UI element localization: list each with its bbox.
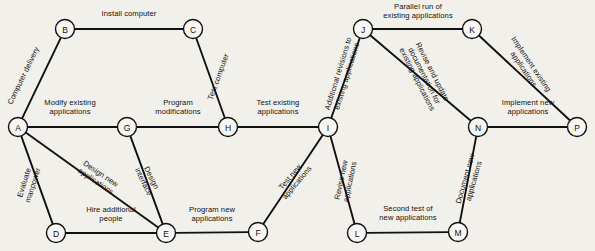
edge-e-f [175, 232, 248, 233]
node-c[interactable]: C [184, 20, 203, 39]
node-label-c: C [190, 25, 196, 35]
node-label-e: E [163, 229, 169, 239]
node-label-m: M [454, 228, 461, 238]
node-label-f: F [255, 228, 260, 238]
node-label-j: J [361, 25, 365, 35]
node-label-p: P [574, 123, 580, 133]
node-l[interactable]: L [348, 224, 367, 243]
node-label-b: B [62, 25, 68, 35]
node-label-h: H [225, 123, 231, 133]
node-label-n: N [475, 123, 481, 133]
node-label-l: L [355, 229, 360, 239]
node-g[interactable]: G [118, 118, 137, 137]
node-n[interactable]: N [469, 118, 488, 137]
edge-f-i [263, 135, 322, 224]
project-network-diagram: ABCDEFGHIJKLMNP Computer deliveryInstall… [0, 0, 595, 251]
edge-m-n [460, 136, 476, 222]
node-label-d: D [53, 229, 59, 239]
node-label-g: G [124, 123, 131, 133]
network-graph-svg: ABCDEFGHIJKLMNP [0, 0, 595, 251]
node-k[interactable]: K [463, 20, 482, 39]
node-d[interactable]: D [47, 224, 66, 243]
node-f[interactable]: F [249, 223, 268, 242]
edge-c-h [196, 38, 225, 118]
edge-i-j [331, 38, 360, 118]
edge-k-p [479, 35, 570, 120]
node-a[interactable]: A [9, 118, 28, 137]
node-j[interactable]: J [354, 20, 373, 39]
node-label-i: I [327, 123, 329, 133]
node-m[interactable]: M [449, 223, 468, 242]
edge-l-m [366, 232, 448, 233]
node-b[interactable]: B [56, 20, 75, 39]
edge-j-n [370, 35, 471, 121]
node-p[interactable]: P [568, 118, 587, 137]
node-i[interactable]: I [319, 118, 338, 137]
edge-a-b [22, 38, 61, 119]
edge-i-l [331, 136, 355, 224]
node-label-a: A [15, 123, 21, 133]
edge-a-e [26, 133, 159, 228]
node-label-k: K [469, 25, 475, 35]
node-h[interactable]: H [219, 118, 238, 137]
node-e[interactable]: E [157, 224, 176, 243]
